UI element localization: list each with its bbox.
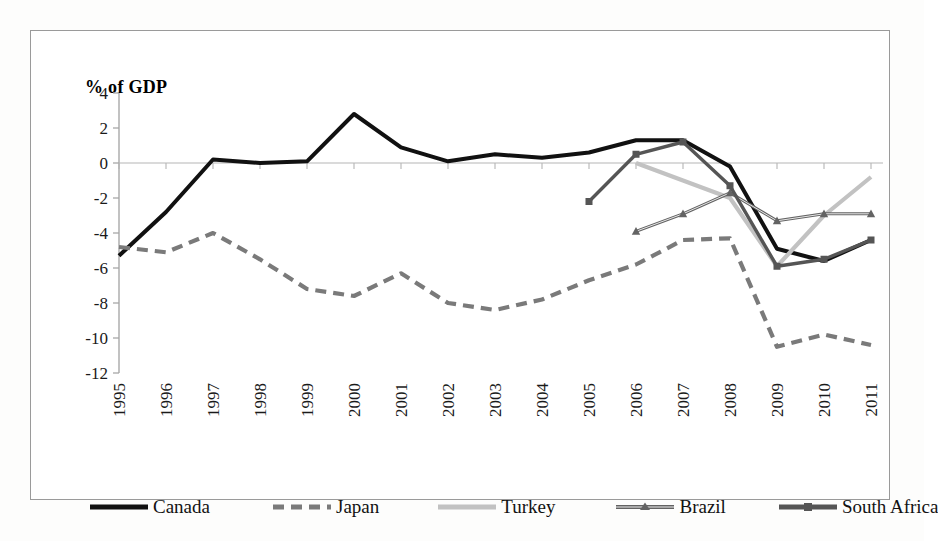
data-point-marker-square xyxy=(821,256,828,263)
x-tick-label: 2004 xyxy=(533,383,552,418)
data-point-marker-square xyxy=(633,151,640,158)
data-point-marker-square xyxy=(868,237,875,244)
legend-swatch-icon xyxy=(437,499,497,515)
x-tick-label: 1997 xyxy=(204,383,223,418)
x-tick-label: 1998 xyxy=(251,383,270,417)
y-tick-label: -8 xyxy=(94,294,108,313)
legend-item-south-africa[interactable]: South Africa xyxy=(778,496,938,518)
y-tick-label: 2 xyxy=(100,119,109,138)
legend-label: South Africa xyxy=(842,496,938,518)
series-line-south-africa xyxy=(589,142,871,266)
y-tick-label: -6 xyxy=(94,259,108,278)
x-tick-label: 2010 xyxy=(815,383,834,417)
x-tick-label: 2006 xyxy=(627,383,646,417)
y-axis: 420-2-4-6-8-10-12 xyxy=(85,84,119,383)
data-point-marker-square xyxy=(727,182,734,189)
x-tick-label: 2003 xyxy=(486,383,505,417)
y-tick-label: -10 xyxy=(85,329,108,348)
data-point-marker-square xyxy=(774,263,781,270)
y-tick-label: 0 xyxy=(100,154,109,173)
x-tick-label: 2008 xyxy=(721,383,740,417)
legend-item-canada[interactable]: Canada xyxy=(89,496,210,518)
legend-label: Brazil xyxy=(679,496,725,518)
x-tick-label: 2011 xyxy=(862,383,881,416)
chart-legend: CanadaJapanTurkeyBrazilSouth Africa xyxy=(89,489,899,525)
legend-label: Turkey xyxy=(501,496,555,518)
line-chart-plot: 420-2-4-6-8-10-12 1995199619971998199920… xyxy=(31,31,889,499)
y-tick-label: -12 xyxy=(85,364,108,383)
y-tick-label: 4 xyxy=(100,84,109,103)
x-axis xyxy=(119,163,871,169)
chart-frame: % of GDP 420-2-4-6-8-10-12 1995199619971… xyxy=(30,30,890,500)
x-tick-label: 1996 xyxy=(157,383,176,417)
x-tick-label: 2002 xyxy=(439,383,458,417)
x-tick-label: 1995 xyxy=(110,383,129,417)
y-tick-label: -4 xyxy=(94,224,109,243)
series-lines xyxy=(119,114,875,347)
x-axis-tick-labels: 1995199619971998199920002001200220032004… xyxy=(110,383,881,418)
legend-item-turkey[interactable]: Turkey xyxy=(437,496,555,518)
legend-item-brazil[interactable]: Brazil xyxy=(615,496,725,518)
x-tick-label: 2007 xyxy=(674,383,693,418)
y-tick-label: -2 xyxy=(94,189,108,208)
legend-swatch-icon xyxy=(615,499,675,515)
x-tick-label: 1999 xyxy=(298,383,317,417)
series-line-japan xyxy=(119,233,871,347)
x-tick-label: 2000 xyxy=(345,383,364,417)
legend-item-japan[interactable]: Japan xyxy=(272,496,379,518)
x-tick-label: 2009 xyxy=(768,383,787,417)
data-point-marker-square xyxy=(586,198,593,205)
legend-swatch-icon xyxy=(778,499,838,515)
x-tick-label: 2005 xyxy=(580,383,599,417)
legend-swatch-icon xyxy=(89,499,149,515)
legend-label: Canada xyxy=(153,496,210,518)
x-tick-label: 2001 xyxy=(392,383,411,417)
data-point-marker-square xyxy=(680,139,687,146)
legend-label: Japan xyxy=(336,496,379,518)
legend-swatch-icon xyxy=(272,499,332,515)
